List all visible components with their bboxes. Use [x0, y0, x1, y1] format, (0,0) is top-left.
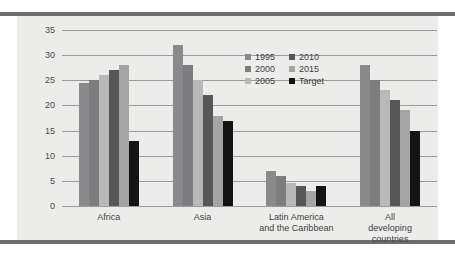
legend-swatch-icon	[289, 66, 295, 72]
y-axis-tick-label: 15	[45, 126, 55, 136]
bar	[286, 183, 296, 206]
legend-label: Target	[299, 76, 324, 86]
bar	[306, 191, 316, 206]
legend-label: 1995	[255, 52, 275, 62]
legend-swatch-icon	[245, 66, 251, 72]
legend-label: 2000	[255, 64, 275, 74]
bar	[213, 116, 223, 207]
bar	[296, 186, 306, 206]
chart-figure: 05101520253035 AfricaAsiaLatin America a…	[0, 0, 455, 256]
bar	[410, 131, 420, 206]
y-axis-tick-label: 10	[45, 151, 55, 161]
gridline	[62, 206, 437, 207]
bar	[203, 95, 213, 206]
legend-swatch-icon	[245, 54, 251, 60]
x-axis-category-label: Asia	[194, 212, 212, 223]
bar	[183, 65, 193, 206]
y-axis-tick-label: 30	[45, 50, 55, 60]
bar	[370, 80, 380, 206]
y-axis-tick-label: 20	[45, 100, 55, 110]
legend-swatch-icon	[245, 78, 251, 84]
legend-item: 1995	[245, 52, 275, 62]
bar-group-bars	[360, 30, 420, 206]
legend-item: 2015	[289, 64, 324, 74]
bar	[380, 90, 390, 206]
bar	[173, 45, 183, 206]
legend-label: 2005	[255, 76, 275, 86]
y-axis-tick-label: 0	[50, 201, 55, 211]
bar	[109, 70, 119, 206]
x-axis-category-label: All developing countries	[367, 212, 414, 245]
bar	[266, 171, 276, 206]
bar	[223, 121, 233, 206]
y-axis-tick-label: 5	[50, 176, 55, 186]
chart-panel: 05101520253035 AfricaAsiaLatin America a…	[17, 16, 438, 240]
bar	[79, 83, 89, 206]
bar-group-bars	[79, 30, 139, 206]
legend-item: Target	[289, 76, 324, 86]
bar-group	[360, 30, 420, 206]
y-axis-tick-label: 25	[45, 75, 55, 85]
chart-legend: 19952010200020152005Target	[245, 52, 324, 86]
bar	[193, 80, 203, 206]
x-axis-category-label: Latin America and the Caribbean	[259, 212, 333, 234]
bar	[89, 80, 99, 206]
bar	[400, 110, 410, 206]
bar	[276, 176, 286, 206]
bar	[129, 141, 139, 206]
legend-swatch-icon	[289, 54, 295, 60]
x-axis-category-label: Africa	[97, 212, 120, 223]
bar-group	[79, 30, 139, 206]
y-axis-tick-label: 35	[45, 25, 55, 35]
bar	[390, 100, 400, 206]
legend-label: 2015	[299, 64, 319, 74]
bar	[316, 186, 326, 206]
bar-group	[173, 30, 233, 206]
bar-group-bars	[173, 30, 233, 206]
bar	[119, 65, 129, 206]
legend-item: 2000	[245, 64, 275, 74]
legend-swatch-icon	[289, 78, 295, 84]
legend-label: 2010	[299, 52, 319, 62]
legend-item: 2010	[289, 52, 324, 62]
bar	[99, 75, 109, 206]
bar	[360, 65, 370, 206]
legend-item: 2005	[245, 76, 275, 86]
